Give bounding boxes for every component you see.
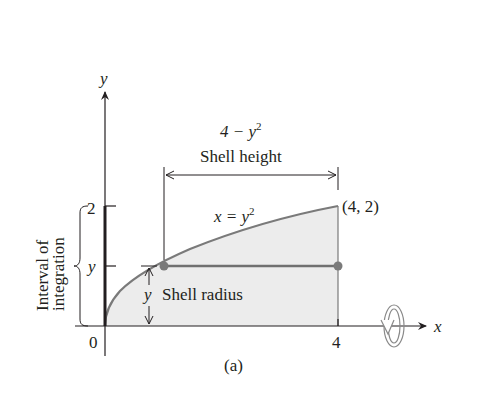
x-axis-label: x	[433, 317, 442, 336]
y-tick-label-y: y	[86, 257, 96, 276]
shell-method-diagram: y x 0 4 2 y x = y2 (4, 2) 4 − y2 Shell h…	[0, 0, 480, 400]
origin-label: 0	[89, 333, 98, 352]
shell-height-expression-exponent: 2	[256, 120, 262, 132]
shell-right-point	[334, 262, 343, 271]
figure-caption: (a)	[224, 356, 243, 375]
y-tick-label-2: 2	[87, 199, 96, 218]
shell-radius-label: Shell radius	[162, 285, 243, 304]
shell-left-point	[160, 262, 169, 271]
shell-height-label: Shell height	[200, 147, 282, 166]
x-tick-label-4: 4	[332, 333, 341, 352]
shell-height-expression-base: 4 − y	[220, 122, 256, 141]
interval-brace	[74, 206, 88, 326]
endpoint-label: (4, 2)	[342, 197, 379, 216]
shell-height-expression: 4 − y2	[220, 120, 262, 141]
curve-equation: x = y2	[213, 205, 255, 226]
curve-equation-base: x = y	[213, 207, 250, 226]
y-axis-label: y	[98, 69, 108, 88]
interval-label-line2: integration	[49, 237, 68, 311]
curve-equation-exponent: 2	[249, 205, 255, 217]
shell-radius-variable: y	[142, 285, 152, 304]
